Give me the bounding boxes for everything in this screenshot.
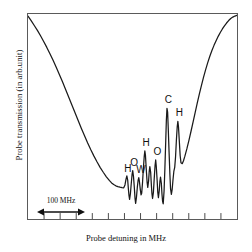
peak-h-2-label: H xyxy=(142,138,149,148)
peak-o-2-label: O xyxy=(153,147,161,157)
plot-svg xyxy=(28,14,237,219)
scale-bar: 100 MHz xyxy=(33,196,89,220)
transmission-curve xyxy=(28,15,237,204)
peak-w-1-label: W xyxy=(136,165,145,175)
figure-root: Probe transmission (in arb.unit) HOWHOCH… xyxy=(0,0,252,252)
x-axis-label: Probe detuning in MHz xyxy=(0,233,252,243)
scale-bar-label: 100 MHz xyxy=(33,196,89,205)
peak-h-3-label: H xyxy=(176,108,183,118)
double-arrow-icon xyxy=(37,207,85,217)
peak-c-1-label: C xyxy=(165,95,172,105)
plot-area: HOWHOCH xyxy=(27,13,238,220)
y-axis-label: Probe transmission (in arb.unit) xyxy=(14,20,24,190)
